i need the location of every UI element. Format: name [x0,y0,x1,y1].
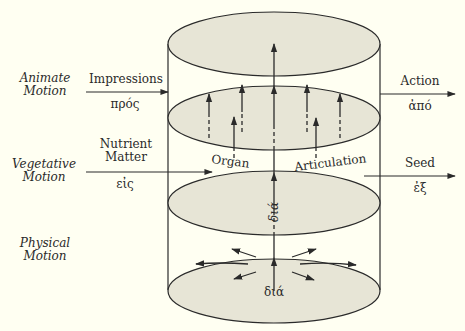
action-label: Action [395,75,445,88]
eis-label: εἰς [100,178,150,191]
dia-bottom-label: διά [259,286,289,299]
animate-motion-label: Animate Motion [10,72,80,98]
apo-label: ἀπό [400,100,440,113]
seed-label: Seed [395,157,445,170]
soul-motion-diagram: διά Organ Articulation Animate Motion Ve… [0,0,465,331]
impressions-label: Impressions [86,73,166,86]
articulation-label: Articulation [293,151,368,174]
pros-label: πρός [100,98,150,111]
vegetative-motion-label: Vegetative Motion [4,158,84,184]
nutrient-matter-label: Nutrient Matter [96,138,156,164]
physical-motion-label: Physical Motion [10,237,80,263]
ex-label: ἐξ [400,182,440,195]
organ-label: Organ [211,152,251,171]
dia-vertical-label: διά [267,202,281,222]
